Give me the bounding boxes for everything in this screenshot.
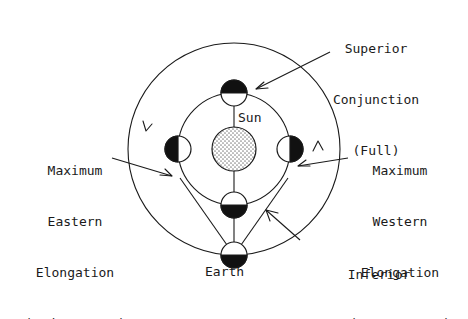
planet-superior-conjunction [221,80,247,106]
annotation-inferior-line1: Inferior [296,266,462,283]
annotation-eastern-line3: Elongation [2,264,148,281]
sun-label: Sun [238,110,261,125]
annotation-eastern-line1: Maximum [2,162,148,179]
annotation-maximum-eastern-elongation: Maximum Eastern Elongation (3rd Quarter) [2,128,148,319]
annotation-superior-line2: Conjunction [288,91,464,108]
annotation-western-line2: Western [332,213,468,230]
annotation-superior-line1: Superior [288,40,464,57]
annotation-eastern-line2: Eastern [2,213,148,230]
sun-body [212,127,256,171]
annotation-western-line1: Maximum [332,162,468,179]
annotation-inferior-conjunction: Inferior Conjunction (New) [296,232,462,319]
planet-inferior-conjunction [221,192,247,218]
diagram-page: Superior Conjunction (Full) Maximum East… [0,0,468,319]
elongation-line-west [234,178,288,255]
elongation-line-east [180,178,234,255]
leader-inferior-conjunction [266,210,300,240]
planet-maximum-eastern-elongation [165,136,191,162]
annotation-eastern-line4: (3rd Quarter) [2,315,148,319]
earth-label: Earth [205,264,244,279]
